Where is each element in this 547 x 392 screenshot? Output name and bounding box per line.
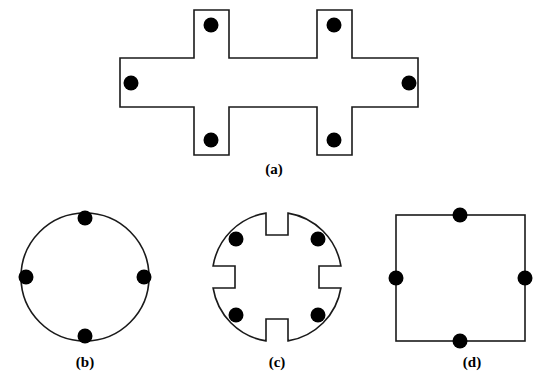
- panel-b-marker-left: [19, 270, 34, 285]
- panel-c-marker-bottom-left: [229, 308, 244, 323]
- panel-d-marker-top: [453, 208, 468, 223]
- panel-d-marker-bottom: [453, 334, 468, 349]
- panel-d-marker-left: [389, 271, 404, 286]
- panel-c-marker-bottom-right: [311, 308, 326, 323]
- panel-c-marker-top-right: [311, 232, 326, 247]
- panel-a-shape: [120, 10, 418, 155]
- panel-b-marker-right: [137, 270, 152, 285]
- panel-a-marker-bottom-left: [204, 133, 219, 148]
- panel-d-shape: [389, 208, 533, 349]
- panel-d-marker-right: [518, 271, 533, 286]
- panel-a-marker-right: [402, 76, 417, 91]
- panel-c-shape: [213, 213, 341, 341]
- panel-c-marker-top-left: [229, 232, 244, 247]
- panel-a-marker-top-left: [204, 18, 219, 33]
- panel-a-marker-top-right: [327, 18, 342, 33]
- panel-b-outline: [21, 213, 149, 341]
- panel-b-shape: [19, 211, 152, 344]
- panel-a-marker-left: [124, 76, 139, 91]
- panel-d-outline: [396, 215, 525, 341]
- panel-d-caption: (d): [444, 355, 500, 370]
- panel-a-caption: (a): [246, 162, 302, 177]
- panel-a-marker-bottom-right: [327, 133, 342, 148]
- panel-b-marker-bottom: [78, 329, 93, 344]
- panel-b-caption: (b): [57, 355, 113, 370]
- figure-container: (a) (b) (c) (d): [0, 0, 547, 392]
- panel-a-outline: [120, 10, 418, 155]
- panel-b-marker-top: [78, 211, 93, 226]
- panel-c-outline: [213, 213, 341, 341]
- panel-c-caption: (c): [249, 355, 305, 370]
- figure-svg: [0, 0, 547, 392]
